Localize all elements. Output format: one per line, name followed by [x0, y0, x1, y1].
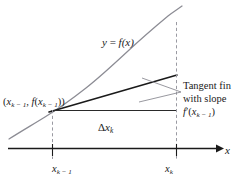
curve-equation-equals: = — [107, 36, 119, 48]
annotation-line-1: Tangent fin — [183, 80, 231, 93]
point-fx-subscript: k − 1 — [43, 101, 58, 109]
point-x-subscript: k − 1 — [11, 101, 26, 109]
function-curve — [9, 6, 182, 139]
annotation-x-subscript: k − 1 — [196, 111, 211, 119]
annotation-line-3: f′(xk − 1) — [183, 106, 231, 120]
x-axis-label: x — [225, 144, 230, 156]
point-close-paren: ) — [61, 96, 65, 107]
delta-x-subscript: k — [110, 126, 113, 135]
tangent-fin-figure: y = f(x) (xk − 1, f(xk − 1)) Δxk Tangent… — [0, 0, 237, 185]
tick-label-xk: xk — [165, 163, 173, 176]
tangent-fin-annotation: Tangent fin with slope f′(xk − 1) — [183, 80, 231, 119]
tangent-point-label: (xk − 1, f(xk − 1)) — [3, 96, 65, 109]
tick-right-subscript: k — [170, 168, 173, 176]
tick-label-xk-minus-1: xk − 1 — [52, 163, 72, 176]
curve-equation-label: y = f(x) — [102, 36, 134, 48]
tangent-line — [49, 75, 177, 112]
annotation-close-paren: ) — [212, 106, 216, 117]
leader-line-lower — [139, 92, 181, 102]
delta-x-label: Δxk — [98, 121, 113, 135]
x-axis-arrowhead — [216, 145, 224, 153]
tick-left-subscript: k − 1 — [57, 168, 72, 176]
curve-equation-arg: (x) — [122, 36, 134, 48]
annotation-line-2: with slope — [183, 93, 231, 106]
